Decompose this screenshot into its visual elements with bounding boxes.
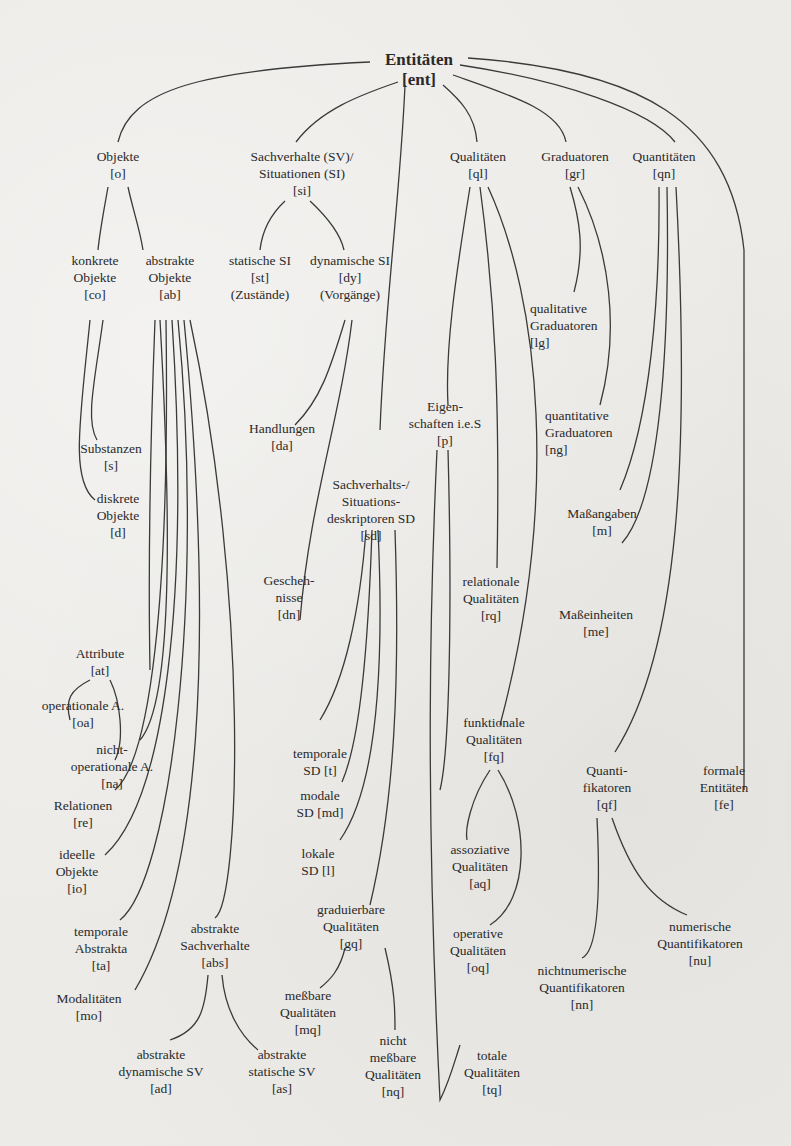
node-nicht-messbare-qualitaeten: nicht meßbare Qualitäten [nq]	[365, 1032, 421, 1100]
node-abstrakte-statische-sv: abstrakte statische SV [as]	[248, 1046, 315, 1097]
node-graduatoren: Graduatoren [gr]	[541, 148, 608, 182]
node-quantitaeten: Quantitäten [qn]	[633, 148, 696, 182]
node-funktionale-qualitaeten: funktionale Qualitäten [fq]	[463, 714, 524, 765]
node-nichtnumerische-quantifikatoren: nichtnumerische Quantifikatoren [nn]	[537, 962, 626, 1013]
node-quantitative-graduatoren: quantitative Graduatoren [ng]	[545, 407, 612, 458]
node-substanzen: Substanzen [s]	[80, 440, 142, 474]
node-sd: Sachverhalts-/ Situations- deskriptoren …	[327, 476, 415, 544]
node-statische-si: statische SI [st] (Zustände)	[229, 252, 291, 303]
node-objekte: Objekte [o]	[97, 148, 140, 182]
node-attribute: Attribute [at]	[76, 645, 125, 679]
node-abstrakte-objekte: abstrakte Objekte [ab]	[146, 252, 195, 303]
node-abstrakte-dynamische-sv: abstrakte dynamische SV [ad]	[118, 1046, 203, 1097]
node-formale-entitaeten: formale Entitäten [fe]	[700, 762, 749, 813]
node-graduierbare-qualitaeten: graduierbare Qualitäten [gq]	[317, 901, 385, 952]
node-modale-sd: modale SD [md]	[297, 787, 344, 821]
node-temporale-abstrakta: temporale Abstrakta [ta]	[74, 923, 128, 974]
node-assoziative-qualitaeten: assoziative Qualitäten [aq]	[450, 841, 509, 892]
node-masseinheiten: Maßeinheiten [me]	[559, 606, 633, 640]
node-relationen: Relationen [re]	[54, 797, 112, 831]
node-handlungen: Handlungen [da]	[249, 420, 315, 454]
node-abstrakte-sachverhalte: abstrakte Sachverhalte [abs]	[180, 920, 250, 971]
node-diskrete-objekte: diskrete Objekte [d]	[97, 490, 140, 541]
node-dynamische-si: dynamische SI [dy] (Vorgänge)	[310, 252, 390, 303]
node-totale-qualitaeten: totale Qualitäten [tq]	[464, 1047, 520, 1098]
node-lokale-sd: lokale SD [l]	[301, 845, 334, 879]
node-modalitaeten: Modalitäten [mo]	[56, 990, 121, 1024]
node-qualitaeten: Qualitäten [ql]	[450, 148, 506, 182]
node-entitaeten: Entitäten [ent]	[385, 50, 453, 90]
node-numerische-quantifikatoren: numerische Quantifikatoren [nu]	[657, 918, 742, 969]
node-quantifikatoren: Quanti- fikatoren [qf]	[583, 762, 632, 813]
node-operationale-a: operationale A. [oa]	[42, 697, 124, 731]
node-eigenschaften: Eigen- schaften i.e.S [p]	[409, 398, 481, 449]
node-operative-qualitaeten: operative Qualitäten [oq]	[450, 925, 506, 976]
node-relationale-qualitaeten: relationale Qualitäten [rq]	[463, 573, 520, 624]
node-messbare-qualitaeten: meßbare Qualitäten [mq]	[280, 987, 336, 1038]
node-konkrete-objekte: konkrete Objekte [co]	[71, 252, 118, 303]
node-temporale-sd: temporale SD [t]	[293, 745, 347, 779]
node-geschehnisse: Gescheh- nisse [dn]	[264, 572, 315, 623]
node-ideelle-objekte: ideelle Objekte [io]	[56, 846, 99, 897]
node-nicht-operationale-a: nicht- operationale A. [na]	[71, 741, 153, 792]
node-sachverhalte: Sachverhalte (SV)/ Situationen (SI) [si]	[250, 148, 353, 199]
node-qualitative-graduatoren: qualitative Graduatoren [lg]	[530, 300, 597, 351]
node-massangaben: Maßangaben [m]	[567, 505, 637, 539]
